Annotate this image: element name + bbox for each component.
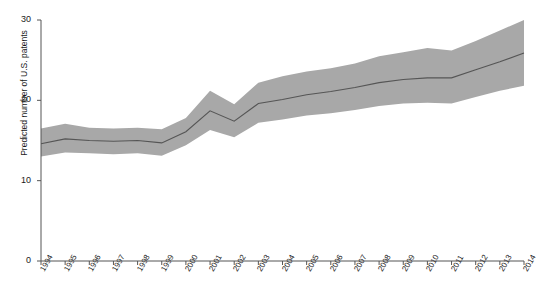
confidence-band (41, 20, 524, 157)
confidence-band-group (41, 20, 524, 157)
y-tick-marks (37, 20, 41, 261)
x-tick-marks (41, 261, 524, 265)
